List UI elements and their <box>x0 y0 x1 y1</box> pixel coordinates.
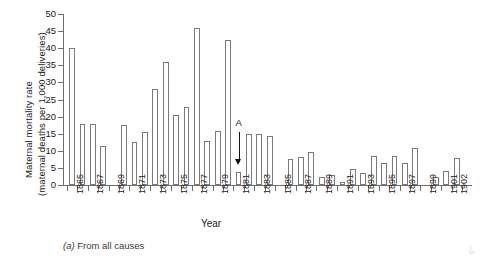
x-axis-title-text: Year <box>201 218 221 229</box>
y-axis-title-line1: Maternal mortality rate <box>23 81 34 178</box>
x-axis-tick-mark <box>400 186 401 191</box>
y-axis-tick-label: 30 <box>45 77 56 87</box>
figure-maternal-mortality: Maternal mortality rate (maternal deaths… <box>0 0 482 260</box>
y-axis-tick-mark <box>58 48 63 49</box>
figure-caption-text: From all causes <box>77 240 144 251</box>
x-axis-tick-mark <box>109 186 110 191</box>
x-axis-tick-mark <box>213 186 214 191</box>
y-axis-tick-label: 40 <box>45 43 56 53</box>
x-axis-tick-label: 1897 <box>408 174 417 194</box>
y-axis-tick-label: 5 <box>51 163 56 173</box>
annotation-a-arrow-line <box>239 132 240 162</box>
y-axis-tick-mark <box>58 117 63 118</box>
bar <box>225 40 231 185</box>
x-axis-tick-label: 1867 <box>96 174 105 194</box>
y-axis-tick-label: 45 <box>45 26 56 36</box>
x-axis-tick-label: 1875 <box>180 174 189 194</box>
x-axis-tick-label: 1879 <box>221 174 230 194</box>
x-axis-tick-mark <box>316 186 317 191</box>
x-axis-tick-label: 1887 <box>304 174 313 194</box>
figure-caption-prefix: (a) <box>63 240 75 251</box>
x-axis-title: Year <box>0 218 482 229</box>
x-axis-tick-label: 1891 <box>346 174 355 194</box>
y-axis-tick-mark <box>58 134 63 135</box>
x-axis-tick-label: 1865 <box>76 174 85 194</box>
x-axis-tick-mark <box>420 186 421 191</box>
scan-artifact: ¿ <box>467 242 475 254</box>
y-axis-tick-label: 20 <box>45 112 56 122</box>
x-axis-tick-mark <box>129 186 130 191</box>
y-axis-tick-mark <box>58 185 63 186</box>
x-axis-tick-label: 1902 <box>460 174 469 194</box>
x-axis-tick-mark <box>275 186 276 191</box>
x-axis-tick-label: 1871 <box>138 174 147 194</box>
y-axis-tick-label: 10 <box>45 146 56 156</box>
y-axis-tick-mark <box>58 82 63 83</box>
x-axis-tick-mark <box>358 186 359 191</box>
x-axis-tick-mark <box>233 186 234 191</box>
plot-area: 05101520253035404550 1865186718691871187… <box>63 14 472 186</box>
x-axis-tick-label: 1893 <box>367 174 376 194</box>
x-axis-tick-mark <box>171 186 172 191</box>
annotation-a-label: A <box>236 118 242 128</box>
x-axis-tick-label: 1883 <box>263 174 272 194</box>
x-axis-tick-mark <box>296 186 297 191</box>
x-axis-tick-label: 1889 <box>325 174 334 194</box>
y-axis-line <box>63 14 64 186</box>
x-axis-tick-label: 1877 <box>200 174 209 194</box>
x-axis-tick-mark <box>88 186 89 191</box>
y-axis-tick-mark <box>58 168 63 169</box>
y-axis-tick-label: 25 <box>45 95 56 105</box>
x-axis-tick-mark <box>337 186 338 191</box>
x-axis-tick-mark <box>254 186 255 191</box>
x-axis-tick-label: 1901 <box>450 174 459 194</box>
x-axis-tick-label: 1881 <box>242 174 251 194</box>
y-axis-tick-mark <box>58 31 63 32</box>
y-axis-tick-label: 0 <box>51 180 56 190</box>
x-axis-tick-label: 1895 <box>388 174 397 194</box>
x-axis-tick-mark <box>67 186 68 191</box>
x-axis-tick-mark <box>192 186 193 191</box>
x-axis-tick-label: 1885 <box>284 174 293 194</box>
x-axis-tick-label: 1869 <box>117 174 126 194</box>
bar <box>163 62 169 185</box>
bar <box>69 48 75 185</box>
y-axis-tick-label: 15 <box>45 129 56 139</box>
x-axis-tick-label: 1873 <box>159 174 168 194</box>
bar <box>194 28 200 185</box>
bar <box>152 89 158 185</box>
annotation-a-arrow-head-icon <box>235 159 241 165</box>
x-axis-tick-mark <box>441 186 442 191</box>
y-axis-tick-mark <box>58 65 63 66</box>
y-axis-tick-mark <box>58 14 63 15</box>
figure-caption: (a) From all causes <box>63 240 144 251</box>
y-axis-tick-mark <box>58 151 63 152</box>
x-axis-tick-label: 1899 <box>429 174 438 194</box>
x-axis-tick-mark <box>150 186 151 191</box>
y-axis-tick-label: 50 <box>45 9 56 19</box>
y-axis-tick-mark <box>58 100 63 101</box>
x-axis-tick-mark <box>379 186 380 191</box>
y-axis-tick-label: 35 <box>45 60 56 70</box>
